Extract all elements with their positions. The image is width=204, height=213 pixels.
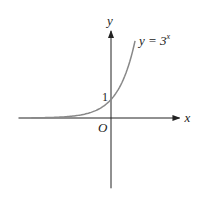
curve-label: y = 3x <box>137 32 171 48</box>
exponential-chart: x y O 1 y = 3x <box>0 0 204 213</box>
y-intercept-label: 1 <box>102 90 108 104</box>
x-axis-label: x <box>183 110 190 125</box>
origin-label: O <box>98 120 108 135</box>
curve-y-equals-3-pow-x <box>31 41 135 118</box>
curve-label-exponent: x <box>166 32 171 41</box>
y-axis-label: y <box>105 13 113 28</box>
curve-label-main: y = 3 <box>137 33 167 48</box>
